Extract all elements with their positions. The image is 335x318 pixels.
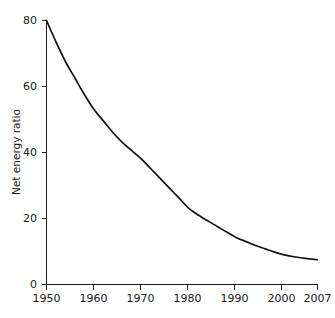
y-tick-label-0: 0: [30, 278, 37, 291]
y-tick-label-40: 40: [23, 146, 37, 159]
net-energy-ratio-curve: [47, 21, 318, 260]
x-tick-label-1990: 1990: [221, 292, 249, 305]
y-tick-marks: [42, 21, 47, 285]
y-tick-label-20: 20: [23, 212, 37, 225]
x-tick-label-1970: 1970: [127, 292, 155, 305]
line-chart: 0 20 40 60 80 1950 1960 1970 1980 1990 2…: [0, 0, 335, 318]
x-tick-label-1980: 1980: [174, 292, 202, 305]
x-tick-label-1950: 1950: [33, 292, 61, 305]
x-tick-label-2007: 2007: [304, 292, 332, 305]
x-tick-marks: [47, 285, 318, 290]
x-tick-label-1960: 1960: [80, 292, 108, 305]
chart-figure: 0 20 40 60 80 1950 1960 1970 1980 1990 2…: [0, 0, 335, 318]
x-tick-label-2000: 2000: [268, 292, 296, 305]
y-tick-label-80: 80: [23, 14, 37, 27]
y-tick-label-60: 60: [23, 80, 37, 93]
y-axis-title: Net energy ratio: [10, 109, 22, 195]
